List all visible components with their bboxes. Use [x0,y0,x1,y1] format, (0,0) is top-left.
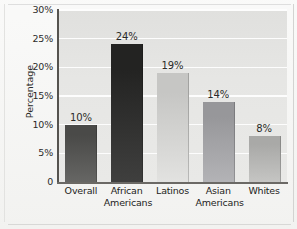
x-tick-label-line: Americans [104,197,150,209]
x-tick-label: Whites [241,185,287,197]
bar [249,136,281,182]
x-axis-ticks: OverallAfricanAmericansLatinosAsianAmeri… [58,185,287,225]
y-axis-title: Percentage [24,53,35,131]
y-tick-label: 5% [38,147,53,158]
bar-value-label: 19% [162,60,184,71]
x-axis-line [57,182,288,184]
x-tick-label-line: Asian [195,185,241,197]
bar-value-label: 10% [70,112,92,123]
bars-layer: 10%24%19%14%8% [58,10,287,182]
x-tick-label-line: Latinos [150,185,196,197]
y-tick-label: 0 [47,176,53,187]
x-tick-label: Overall [58,185,104,197]
figure-border-right [293,4,294,222]
y-tick-label: 20% [32,61,53,72]
y-tick-label: 25% [32,33,53,44]
y-tick-label: 30% [32,4,53,15]
bar [65,125,97,182]
chart-figure: 10%24%19%14%8% 05%10%15%20%25%30% Percen… [0,0,297,229]
bar-value-label: 14% [207,89,229,100]
x-tick-label: Latinos [150,185,196,197]
y-axis-title-wrap: Percentage [14,0,30,190]
x-tick-label: AsianAmericans [195,185,241,208]
bar-value-label: 24% [116,31,138,42]
x-tick-label-line: African [104,185,150,197]
bar-value-label: 8% [256,123,272,134]
bar [111,44,143,182]
y-tick-label: 15% [32,90,53,101]
x-tick-label: AfricanAmericans [104,185,150,208]
bar [203,102,235,182]
bar [157,73,189,182]
y-tick-label: 10% [32,119,53,130]
x-tick-label-line: Whites [241,185,287,197]
x-tick-label-line: Americans [195,197,241,209]
x-tick-label-line: Overall [58,185,104,197]
